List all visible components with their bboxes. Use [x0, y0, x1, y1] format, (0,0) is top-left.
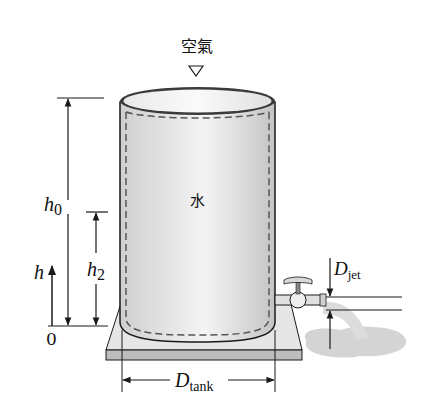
- d-jet-label: Djet: [333, 258, 361, 282]
- air-label: 空氣: [181, 37, 213, 56]
- water-label: 水: [190, 192, 205, 210]
- free-surface-marker: [189, 66, 203, 76]
- h0-label: h0: [44, 193, 62, 218]
- tank-drain-diagram: 空氣 水 Djet h0 h2 h 0: [0, 0, 440, 413]
- tank: [120, 87, 275, 342]
- zero-label: 0: [46, 329, 57, 349]
- faucet-icon: [275, 277, 326, 308]
- d-tank-label: Dtank: [174, 369, 214, 394]
- h-label: h: [34, 261, 44, 283]
- h2-label: h2: [87, 258, 105, 283]
